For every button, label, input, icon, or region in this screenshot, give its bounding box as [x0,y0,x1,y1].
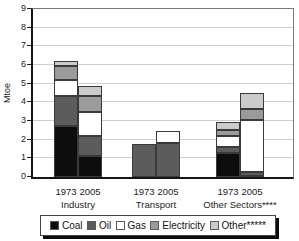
y-tick-label: 2 [0,134,26,144]
segment-oil [156,143,180,177]
x-tick-label-year: 2005 [237,186,267,197]
segment-gas [156,131,180,143]
legend-label: Electricity [162,220,205,231]
legend-item-oil: Oil [87,220,111,231]
y-tick-label: 9 [0,3,26,13]
legend-label: Other***** [222,220,266,231]
segment-other [240,93,264,109]
segment-other [216,122,240,130]
segment-gas [78,112,102,136]
legend-swatch-icon [150,221,159,230]
segment-oil [240,172,264,176]
bar-industry-2005 [78,9,102,177]
legend-label: Coal [62,220,83,231]
segment-oil [54,96,78,126]
y-tick-label: 8 [0,22,26,32]
bar-other-sectors-1973 [216,9,240,177]
legend-swatch-icon [87,221,96,230]
segment-other [54,61,78,66]
y-tick-label: 4 [0,96,26,106]
x-tick-label-year: 2005 [75,186,105,197]
y-tick-label: 5 [0,78,26,88]
segment-coal [216,153,240,177]
bar-transport-2005 [156,9,180,177]
legend-swatch-icon [50,221,59,230]
segment-electricity [54,66,78,80]
bar-industry-1973 [54,9,78,177]
segment-electricity [216,130,240,136]
legend-swatch-icon [210,221,219,230]
legend-label: Gas [128,220,146,231]
segment-coal [54,126,78,177]
segment-electricity [78,96,102,112]
x-tick-label-year: 2005 [153,186,183,197]
segment-other [78,86,102,96]
segment-coal [78,156,102,177]
legend-label: Oil [99,220,111,231]
segment-gas [240,120,264,172]
y-tick-label: 6 [0,59,26,69]
legend-item-gas: Gas [116,220,146,231]
y-tick-label: 3 [0,115,26,125]
legend-item-electricity: Electricity [150,220,205,231]
bar-transport-1973 [132,9,156,177]
segment-oil [78,136,102,156]
stacked-bar-chart: Mtoe 0123456789 19732005Industry19732005… [0,0,299,241]
segment-oil [132,144,156,177]
x-group-label: Other Sectors**** [185,199,295,210]
legend: CoalOilGasElectricityOther***** [40,215,276,236]
segment-gas [216,136,240,147]
segment-gas [54,80,78,96]
legend-swatch-icon [116,221,125,230]
y-tick-label: 0 [0,171,26,181]
y-tick-label: 7 [0,40,26,50]
segment-oil [216,147,240,153]
y-tick-label: 1 [0,152,26,162]
segment-electricity [240,109,264,120]
legend-item-other: Other***** [210,220,266,231]
legend-item-coal: Coal [50,220,83,231]
plot-area [31,8,294,179]
bar-other-sectors-2005 [240,9,264,177]
